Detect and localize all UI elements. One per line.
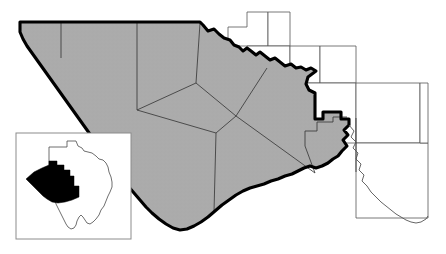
neighbor-county	[228, 12, 268, 46]
texas-locator-inset	[16, 133, 131, 239]
map-container	[0, 0, 446, 254]
neighbor-county	[420, 83, 428, 143]
neighbor-county	[320, 46, 356, 83]
neighbor-county	[356, 143, 428, 218]
neighbor-county	[268, 12, 290, 46]
regional-county-map	[0, 0, 446, 254]
neighbor-county	[356, 83, 420, 143]
